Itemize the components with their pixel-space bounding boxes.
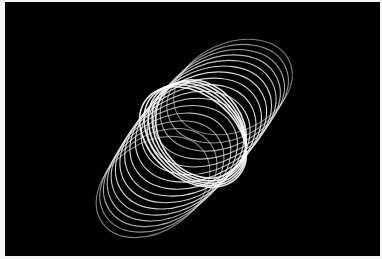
photo-frame	[0, 0, 382, 259]
light-trails	[5, 2, 380, 256]
light-trail-photo	[5, 2, 380, 256]
